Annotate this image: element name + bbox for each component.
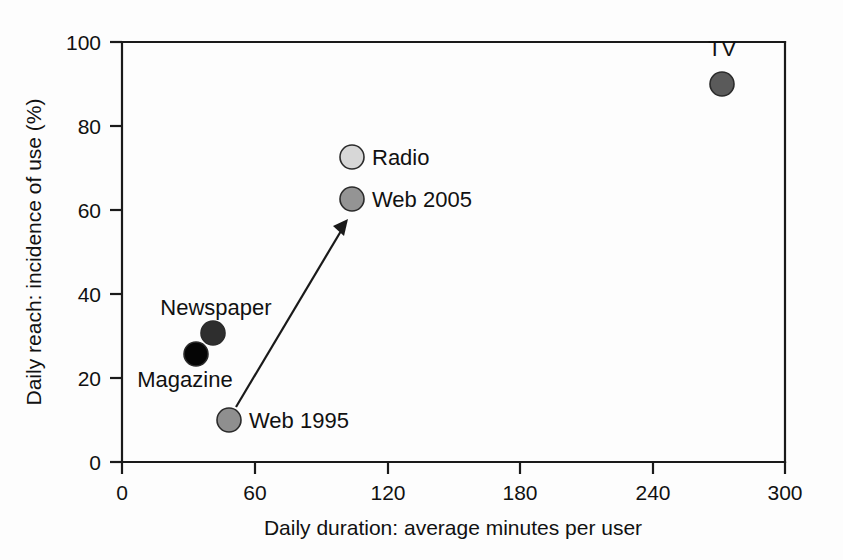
y-axis-ticks: 100 80 60 40 20 0 — [66, 31, 122, 474]
data-point-magazine[interactable] — [184, 342, 208, 366]
x-tick-label-300: 300 — [767, 481, 802, 504]
data-label-magazine: Magazine — [137, 367, 232, 392]
x-tick-label-0: 0 — [116, 481, 128, 504]
data-point-web-1995[interactable] — [217, 408, 241, 432]
data-label-radio: Radio — [372, 145, 429, 170]
y-tick-label-100: 100 — [66, 31, 101, 54]
data-point-radio[interactable] — [340, 145, 364, 169]
x-axis-title: Daily duration: average minutes per user — [264, 516, 642, 539]
y-tick-label-40: 40 — [78, 283, 101, 306]
data-label-web-2005: Web 2005 — [372, 187, 472, 212]
x-tick-label-180: 180 — [502, 481, 537, 504]
y-tick-label-60: 60 — [78, 199, 101, 222]
x-axis-ticks: 0 60 120 180 240 300 — [116, 462, 802, 504]
data-point-web-2005[interactable] — [340, 187, 364, 211]
data-label-newspaper: Newspaper — [160, 295, 271, 320]
y-tick-label-20: 20 — [78, 367, 101, 390]
chart-page: 100 80 60 40 20 0 0 60 120 180 240 — [0, 0, 843, 560]
data-point-tv[interactable] — [710, 72, 734, 96]
data-label-web-1995: Web 1995 — [249, 408, 349, 433]
x-tick-label-60: 60 — [243, 481, 266, 504]
scatter-chart: 100 80 60 40 20 0 0 60 120 180 240 — [0, 0, 843, 560]
y-tick-label-0: 0 — [89, 451, 101, 474]
data-label-tv: TV — [708, 36, 736, 61]
axes-frame — [122, 42, 785, 462]
y-axis-title: Daily reach: incidence of use (%) — [22, 99, 45, 406]
x-tick-label-240: 240 — [635, 481, 670, 504]
y-tick-label-80: 80 — [78, 115, 101, 138]
x-tick-label-120: 120 — [370, 481, 405, 504]
data-point-newspaper[interactable] — [201, 321, 225, 345]
data-points: TV Radio Web 2005 Newspaper Magazine Web… — [137, 36, 736, 433]
